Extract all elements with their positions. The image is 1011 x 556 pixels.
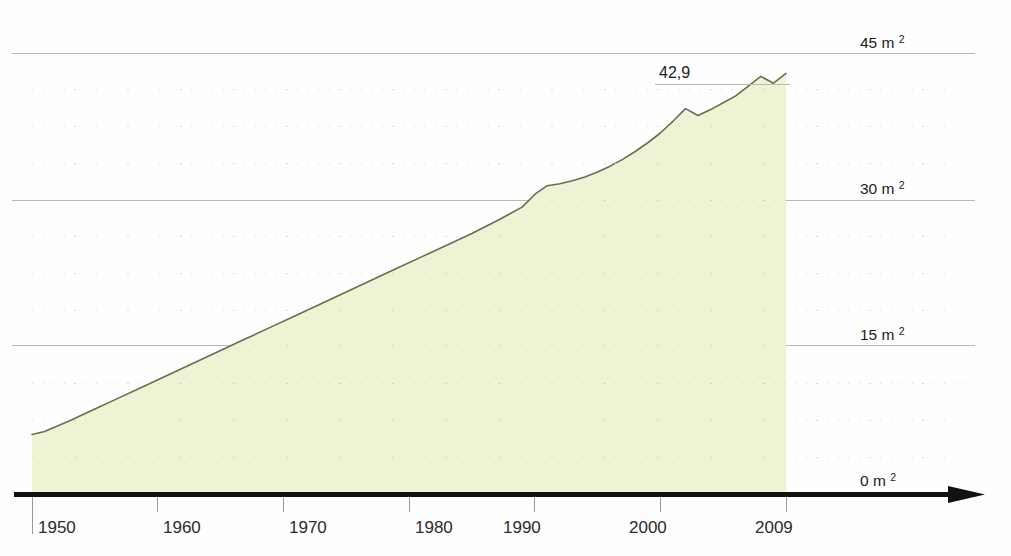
x-label-1970: 1970 bbox=[289, 518, 327, 537]
x-label-1960: 1960 bbox=[163, 518, 201, 537]
x-label-1950: 1950 bbox=[38, 518, 76, 537]
x-label-2009: 2009 bbox=[755, 518, 793, 537]
area-chart: 45 m 2 30 m 2 15 m 2 0 m 2 42,9 bbox=[0, 0, 1011, 556]
chart-container: 45 m 2 30 m 2 15 m 2 0 m 2 42,9 bbox=[0, 0, 1011, 556]
x-label-1980: 1980 bbox=[415, 518, 453, 537]
y-label-15: 15 m 2 bbox=[860, 325, 905, 343]
x-label-2000: 2000 bbox=[629, 518, 667, 537]
y-label-45: 45 m 2 bbox=[860, 33, 905, 51]
y-label-30: 30 m 2 bbox=[860, 179, 905, 197]
peak-value-label: 42,9 bbox=[659, 64, 690, 81]
x-label-1990: 1990 bbox=[503, 518, 541, 537]
